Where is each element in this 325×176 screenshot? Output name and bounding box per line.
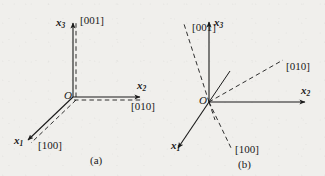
panel-b-x1-axis-label: x1 <box>171 140 180 151</box>
panel-b-direction-001-line <box>184 24 209 102</box>
panel-a-origin-label: O <box>64 90 72 101</box>
panel-b-direction-010-line <box>209 60 283 102</box>
panel-b-direction-010-label: [010] <box>286 61 310 72</box>
panel-b-direction-001-label: [001] <box>192 22 216 33</box>
panel-a-direction-010-label: [010] <box>131 101 155 112</box>
panel-a-direction-001-label: [001] <box>80 15 104 26</box>
crystal-axes-figure: x3 [001] x2 [010] x1 [100] O (a) x3 [001… <box>0 0 325 176</box>
panel-a-x3-axis-label: x3 <box>56 17 65 28</box>
panel-b-x1-axis-line <box>178 102 209 148</box>
panel-b-direction-100-line <box>209 102 232 150</box>
panel-b-x1-axis-extension-line <box>209 71 230 102</box>
panel-b-caption: (b) <box>238 159 251 170</box>
panel-a-direction-100-line <box>31 100 76 143</box>
panel-b-x2-axis-label: x2 <box>301 85 310 96</box>
panel-a-x2-axis-label: x2 <box>137 80 146 91</box>
panel-a-caption: (a) <box>90 155 102 166</box>
panel-b-origin-label: O <box>199 95 207 106</box>
panel-a-x1-axis-line <box>28 97 73 140</box>
panel-a-x1-axis-label: x1 <box>14 135 23 146</box>
panel-a-direction-100-label: [100] <box>38 140 62 151</box>
panel-b-direction-100-label: [100] <box>235 144 259 155</box>
